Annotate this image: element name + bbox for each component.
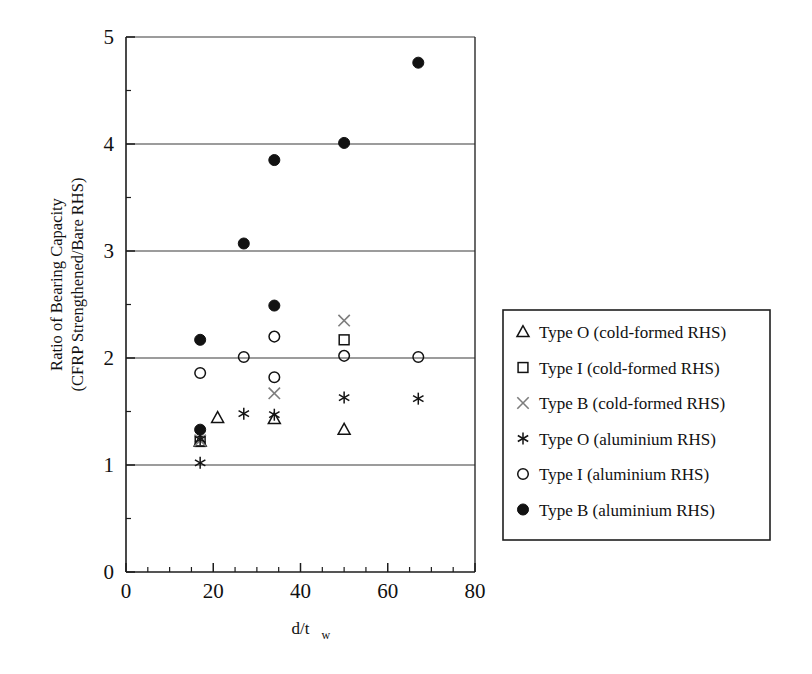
data-point bbox=[413, 393, 423, 405]
x-tick-label-80: 80 bbox=[465, 579, 486, 603]
scatter-chart: 020406080 012345 d/tw Ratio of Bearing C… bbox=[0, 0, 812, 674]
data-point bbox=[238, 238, 249, 249]
legend: Type O (cold-formed RHS)Type I (cold-for… bbox=[503, 310, 770, 540]
data-point bbox=[339, 137, 350, 148]
legend-item-label: Type I (aluminium RHS) bbox=[539, 465, 709, 484]
x-tick-label-0: 0 bbox=[121, 579, 132, 603]
x-tick-labels: 020406080 bbox=[121, 579, 486, 603]
legend-marker-circle-filled-icon bbox=[517, 504, 528, 515]
x-axis-title: d/tw bbox=[292, 619, 331, 642]
data-point bbox=[195, 424, 206, 435]
data-point bbox=[239, 352, 250, 363]
legend-item[interactable]: Type O (cold-formed RHS) bbox=[517, 323, 726, 342]
data-point bbox=[339, 392, 349, 404]
data-point bbox=[195, 457, 205, 469]
legend-item[interactable]: Type B (cold-formed RHS) bbox=[517, 394, 725, 413]
data-point bbox=[413, 352, 424, 363]
legend-item-label: Type I (cold-formed RHS) bbox=[539, 359, 720, 378]
plot-frame bbox=[126, 37, 475, 572]
data-point bbox=[413, 57, 424, 68]
y-tick-label-5: 5 bbox=[104, 25, 115, 49]
legend-item[interactable]: Type I (cold-formed RHS) bbox=[518, 359, 719, 378]
data-point bbox=[212, 412, 224, 423]
data-point bbox=[269, 300, 280, 311]
y-axis-title-line2: (CFRP Strengthened/Bare RHS) bbox=[68, 178, 87, 392]
data-point bbox=[338, 315, 349, 326]
x-tick-label-60: 60 bbox=[377, 579, 398, 603]
y-tick-label-1: 1 bbox=[104, 453, 115, 477]
data-point bbox=[269, 155, 280, 166]
data-point bbox=[239, 408, 249, 420]
legend-item-label: Type B (aluminium RHS) bbox=[539, 501, 715, 520]
y-tick-label-4: 4 bbox=[104, 132, 115, 156]
legend-item[interactable]: Type O (aluminium RHS) bbox=[518, 430, 716, 449]
x-axis-title-text: d/t bbox=[292, 619, 310, 638]
legend-item-label: Type B (cold-formed RHS) bbox=[539, 394, 725, 413]
y-tick-label-2: 2 bbox=[104, 346, 115, 370]
legend-item[interactable]: Type I (aluminium RHS) bbox=[518, 465, 709, 484]
y-axis-title-line1: Ratio of Bearing Capacity bbox=[47, 197, 66, 370]
series-3 bbox=[195, 392, 424, 469]
data-point bbox=[269, 331, 280, 342]
data-point bbox=[339, 351, 350, 362]
x-tick-label-40: 40 bbox=[290, 579, 311, 603]
data-point bbox=[339, 335, 349, 345]
x-axis-title-subscript: w bbox=[322, 628, 331, 642]
data-point bbox=[195, 334, 206, 345]
y-tick-labels: 012345 bbox=[104, 25, 115, 584]
data-point bbox=[195, 368, 206, 379]
y-tick-label-0: 0 bbox=[104, 560, 115, 584]
series-4 bbox=[195, 331, 424, 382]
data-markers-group bbox=[194, 57, 424, 469]
data-point bbox=[338, 423, 350, 434]
x-tick-label-20: 20 bbox=[203, 579, 224, 603]
data-point bbox=[269, 372, 280, 383]
series-5 bbox=[195, 57, 424, 435]
legend-item-label: Type O (cold-formed RHS) bbox=[539, 323, 726, 342]
legend-item[interactable]: Type B (aluminium RHS) bbox=[517, 501, 714, 520]
legend-item-label: Type O (aluminium RHS) bbox=[539, 430, 716, 449]
series-2 bbox=[194, 315, 349, 446]
axis-ticks-group bbox=[126, 37, 475, 572]
y-tick-label-3: 3 bbox=[104, 239, 115, 263]
figure-container: 020406080 012345 d/tw Ratio of Bearing C… bbox=[0, 0, 812, 674]
y-axis-title: Ratio of Bearing Capacity(CFRP Strengthe… bbox=[47, 178, 87, 392]
data-point bbox=[269, 388, 280, 399]
